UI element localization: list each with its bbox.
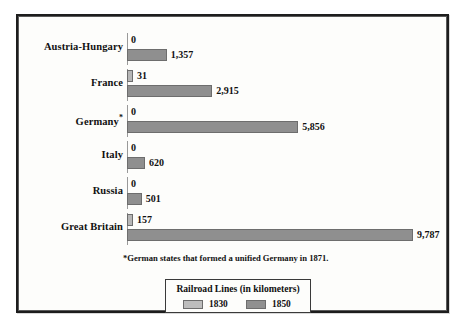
chart-footnote: *German states that formed a unified Ger… [123, 253, 329, 263]
category-label-france: France [23, 77, 123, 88]
bar-value-label-1850: 1,357 [171, 47, 194, 62]
chart-legend: Railroad Lines (in kilometers) 1830 1850 [165, 279, 311, 313]
bar-group-1830: 0 [127, 33, 442, 47]
bar-value-label-1850: 620 [149, 155, 164, 170]
bar-value-label-1830: 31 [137, 68, 147, 83]
bar-group-1850: 501 [127, 192, 442, 206]
bar-1850 [127, 229, 413, 241]
footnote-marker: * [119, 113, 123, 122]
bar-value-label-1850: 501 [146, 191, 161, 206]
legend-item-1850: 1850 [246, 298, 291, 310]
bar-value-label-1830: 157 [137, 212, 152, 227]
bar-value-label-1850: 9,787 [417, 227, 440, 242]
bar-group-1830: 0 [127, 141, 442, 155]
bar-1850 [127, 121, 298, 133]
chart-outer-frame: Austria-Hungary01,357France312,915German… [16, 14, 449, 313]
bar-value-label-1830: 0 [131, 104, 136, 119]
chart-category-row: Germany*05,856 [23, 103, 442, 139]
bar-group-1850: 9,787 [127, 228, 442, 242]
bar-group-1850: 2,915 [127, 84, 442, 98]
chart-category-row: Great Britain1579,787 [23, 211, 442, 247]
legend-item-1830: 1830 [183, 298, 228, 310]
category-label-russia: Russia [23, 185, 123, 196]
category-label-italy: Italy [23, 149, 123, 160]
category-label-greatbritain: Great Britain [23, 221, 123, 232]
chart-category-row: Russia0501 [23, 175, 442, 211]
legend-label-1830: 1830 [209, 299, 228, 309]
chart-inner-panel: Austria-Hungary01,357France312,915German… [18, 16, 447, 311]
bar-group-1830: 0 [127, 105, 442, 119]
bar-value-label-1830: 0 [131, 140, 136, 155]
category-label-germany: Germany* [23, 113, 123, 127]
legend-title: Railroad Lines (in kilometers) [166, 283, 310, 294]
bar-1850 [127, 49, 167, 61]
bar-group-1850: 1,357 [127, 48, 442, 62]
bar-value-label-1850: 2,915 [216, 83, 239, 98]
bar-value-label-1830: 0 [131, 176, 136, 191]
bar-group-1830: 0 [127, 177, 442, 191]
bar-group-1830: 31 [127, 69, 442, 83]
chart-category-row: Austria-Hungary01,357 [23, 31, 442, 67]
chart-category-row: Italy0620 [23, 139, 442, 175]
bar-group-1850: 5,856 [127, 120, 442, 134]
category-label-austriahungary: Austria-Hungary [23, 41, 123, 52]
plot-area: Austria-Hungary01,357France312,915German… [19, 17, 446, 310]
bar-1850 [127, 85, 212, 97]
legend-swatch-1830-icon [183, 300, 203, 309]
bar-value-label-1850: 5,856 [302, 119, 325, 134]
bar-1830 [127, 214, 133, 226]
chart-category-row: France312,915 [23, 67, 442, 103]
legend-label-1850: 1850 [272, 299, 291, 309]
bar-1830 [127, 70, 133, 82]
legend-swatch-1850-icon [246, 300, 266, 309]
bar-value-label-1830: 0 [131, 32, 136, 47]
bar-group-1850: 620 [127, 156, 442, 170]
bar-1850 [127, 157, 145, 169]
bar-1850 [127, 193, 142, 205]
bar-group-1830: 157 [127, 213, 442, 227]
